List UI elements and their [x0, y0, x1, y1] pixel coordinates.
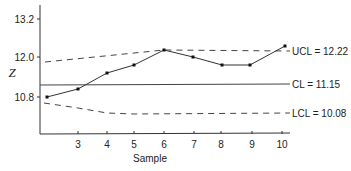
y-tick-label: 13.2 [15, 14, 35, 25]
x-tick-label: 7 [191, 139, 197, 150]
y-tick-label: 12.0 [15, 52, 35, 63]
y-tick-label: 10.8 [15, 92, 35, 103]
x-tick-label: 10 [276, 139, 288, 150]
x-tick-label: 9 [249, 139, 255, 150]
cl-line [40, 84, 290, 85]
z-series-line [47, 46, 285, 97]
x-tick-label: 4 [104, 139, 110, 150]
x-tick-label: 3 [75, 139, 81, 150]
lcl-label: LCL = 10.08 [292, 108, 347, 119]
y-axis-title: Z [8, 65, 16, 80]
x-axis-title: Sample [133, 153, 167, 164]
x-tick-label: 6 [161, 139, 167, 150]
ucl-line [45, 50, 290, 62]
z-series-points [46, 45, 287, 99]
x-tick-label: 8 [218, 139, 224, 150]
x-tick-label: 5 [131, 139, 137, 150]
ucl-label: UCL = 12.22 [292, 46, 348, 57]
lcl-line [44, 103, 290, 114]
cl-label: CL = 11.15 [292, 79, 341, 90]
control-chart: 13.2 12.0 10.8 Z 3 4 5 6 7 8 9 10 Sample… [0, 0, 351, 171]
